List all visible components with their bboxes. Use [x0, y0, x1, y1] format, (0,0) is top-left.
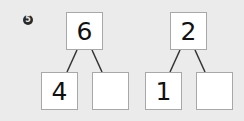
bond-1-part-1-box: 4	[41, 72, 78, 110]
bond-1-left-connector	[67, 50, 77, 72]
bond-2-whole-box: 2	[170, 12, 207, 50]
bond-2-part-1-box: 1	[145, 72, 182, 110]
bond-2-left-connector	[170, 50, 180, 72]
bond-1-part-2-answer-box[interactable]	[92, 72, 129, 110]
bond-1-whole-box: 6	[66, 12, 103, 50]
bond-1-right-connector	[92, 50, 102, 72]
bond-2-right-connector	[195, 50, 205, 72]
bond-2-part-2-answer-box[interactable]	[196, 72, 233, 110]
